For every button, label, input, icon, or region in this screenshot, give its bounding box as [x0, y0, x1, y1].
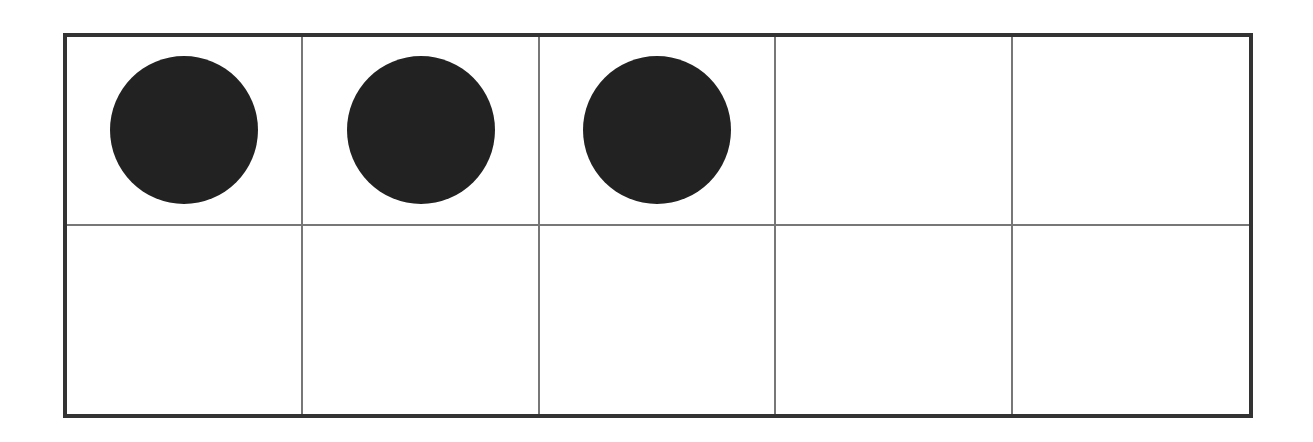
- frame-cell: [540, 226, 776, 415]
- frame-cell: [1013, 226, 1249, 415]
- ten-frame: [63, 33, 1253, 418]
- frame-cell: [1013, 37, 1249, 226]
- counter-dot-icon: [583, 56, 731, 204]
- frame-cell: [776, 37, 1012, 226]
- frame-cell: [540, 37, 776, 226]
- frame-cell: [303, 37, 539, 226]
- frame-cell: [776, 226, 1012, 415]
- frame-cell: [67, 226, 303, 415]
- frame-cell: [67, 37, 303, 226]
- counter-dot-icon: [347, 56, 495, 204]
- counter-dot-icon: [110, 56, 258, 204]
- frame-cell: [303, 226, 539, 415]
